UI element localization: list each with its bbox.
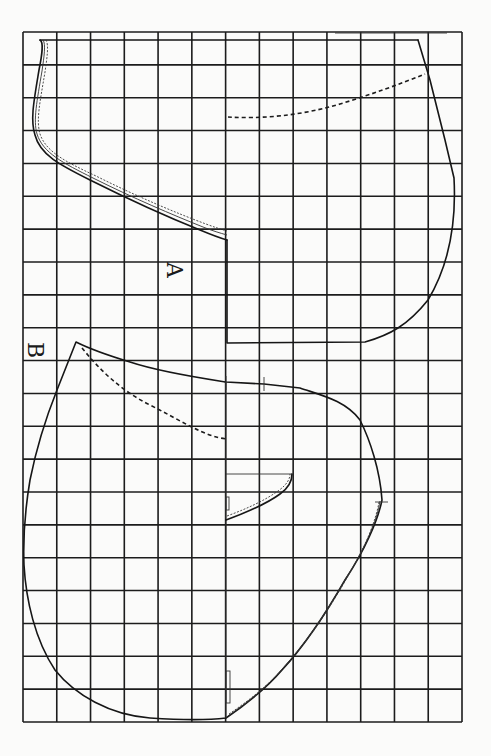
piece-a-label: A [162,261,187,279]
piece-a: A [33,33,455,343]
pattern-diagram: A B [0,0,491,756]
piece-b-label: B [23,342,48,358]
piece-b-mark-rect-2 [226,671,230,703]
pattern-grid [23,32,462,722]
piece-a-seam-line [35,40,227,235]
piece-b-seam-allowance [229,502,379,714]
piece-b-outline [24,342,382,720]
piece-a-right-edge [227,40,454,343]
piece-a-seam-allowance [38,40,227,231]
piece-b-seam-line [228,501,380,716]
piece-a-neck-curve [33,40,227,240]
piece-b-mark-rect-1 [226,497,229,510]
piece-b: B [23,342,388,720]
piece-b-inner-seam [227,474,290,516]
